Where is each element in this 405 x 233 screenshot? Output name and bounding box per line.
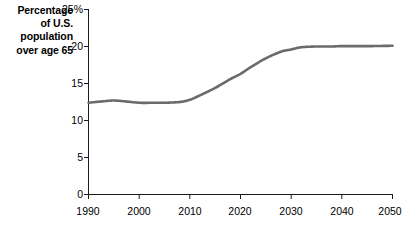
y-tick-marks (84, 10, 88, 195)
x-tick-label: 2030 (279, 205, 303, 217)
y-tick-label: 0 (77, 188, 83, 200)
x-tick-label: 1990 (76, 205, 100, 217)
y-tick-label-group: 25% 20 15 10 5 0 (62, 3, 83, 200)
x-tick-label: 2010 (178, 205, 202, 217)
y-tick-label: 25% (62, 3, 83, 15)
y-tick-label: 5 (77, 151, 83, 163)
x-tick-label: 2050 (378, 205, 402, 217)
line-chart-plot: 25% 20 15 10 5 0 1990 2000 2010 2020 203… (0, 0, 405, 233)
y-tick-label: 20 (71, 40, 83, 52)
x-tick-label: 2040 (330, 205, 354, 217)
y-tick-label: 10 (71, 114, 83, 126)
x-tick-label: 2020 (228, 205, 252, 217)
data-series-line (89, 46, 393, 103)
x-tick-label: 2000 (127, 205, 151, 217)
chart-figure: Percentage of U.S. population over age 6… (0, 0, 405, 233)
x-tick-label-group: 1990 2000 2010 2020 2030 2040 2050 (76, 205, 402, 217)
y-tick-label: 15 (71, 77, 83, 89)
